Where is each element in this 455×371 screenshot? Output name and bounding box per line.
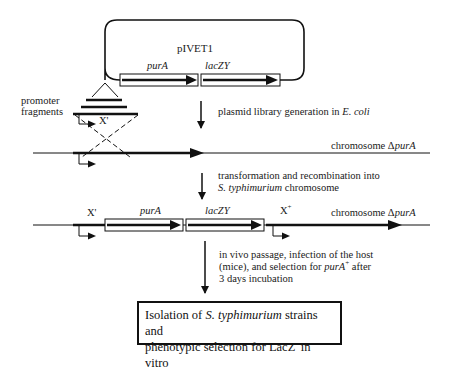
step-3-text-line2: (mice), and selection for purA+ after — [219, 261, 371, 273]
step-3-text-line3: 3 days incubation — [219, 273, 293, 285]
integrated-purA-label: purA — [140, 205, 161, 217]
chromosome-label-2: chromosome ΔpurA — [331, 207, 416, 219]
x-prime-label-1: X' — [99, 115, 108, 127]
chromosome-integrated — [33, 219, 430, 240]
promoter-fragments — [73, 100, 138, 114]
x-plus-label: X+ — [280, 205, 292, 217]
chromosome-label-1: chromosome ΔpurA — [331, 140, 416, 152]
plasmid-purA-gene — [120, 74, 198, 86]
plasmid-lacZY-gene — [201, 74, 280, 86]
step-2-text-line2: S. typhimurium chromosome — [218, 182, 339, 194]
plasmid-purA-label: purA — [147, 60, 168, 72]
step-2-text-line1: transformation and recombination into — [218, 170, 380, 182]
promoter-label-line2: fragments — [21, 106, 63, 118]
final-box-line1: Isolation of S. typhimurium strains and — [145, 307, 334, 339]
plasmid-lacZY-label: lacZY — [205, 60, 230, 72]
x-prime-label-2: X' — [87, 207, 96, 219]
final-box-line2: phenotypic selection for LacZ- in vitro — [145, 339, 334, 371]
integrated-lacZY-label: lacZY — [205, 205, 230, 217]
final-result-box: Isolation of S. typhimurium strains and … — [137, 301, 342, 345]
step-3-text-line1: in vivo passage, infection of the host — [219, 249, 373, 261]
plasmid-name: pIVET1 — [177, 42, 213, 54]
step-1-text: plasmid library generation in E. coli — [218, 106, 370, 118]
